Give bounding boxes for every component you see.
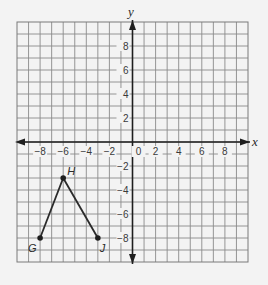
- y-tick-label: −8: [117, 233, 129, 244]
- point-J: [95, 235, 101, 241]
- point-H: [60, 175, 66, 181]
- y-tick-label: 4: [123, 89, 129, 100]
- y-tick-label: −2: [117, 161, 129, 172]
- y-tick-label: −4: [117, 185, 129, 196]
- x-tick-label: −6: [57, 146, 69, 157]
- point-label-J: J: [99, 242, 106, 254]
- point-label-H: H: [67, 165, 75, 177]
- y-tick-label: 6: [123, 65, 129, 76]
- x-tick-label: −4: [81, 146, 93, 157]
- y-axis-label: y: [126, 4, 134, 19]
- x-axis-label: x: [251, 134, 258, 149]
- x-tick-label: 6: [199, 146, 205, 157]
- point-G: [37, 235, 43, 241]
- x-tick-label: 2: [153, 146, 159, 157]
- axes: [15, 20, 250, 264]
- y-tick-label: −6: [117, 209, 129, 220]
- x-tick-label: 8: [222, 146, 228, 157]
- x-tick-label: 4: [176, 146, 182, 157]
- segment-HJ: [63, 178, 98, 238]
- x-tick-label: −2: [104, 146, 116, 157]
- coordinate-plane: −8−6−4−2024688642−2−4−6−8 GHJ x y: [0, 0, 268, 285]
- point-label-G: G: [28, 242, 37, 254]
- y-tick-label: 8: [123, 41, 129, 52]
- x-tick-label: 0: [136, 146, 142, 157]
- line-segments: [40, 178, 98, 238]
- y-tick-label: 2: [123, 113, 129, 124]
- x-tick-label: −8: [34, 146, 46, 157]
